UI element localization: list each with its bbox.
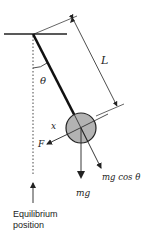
dim-extension-top bbox=[34, 16, 77, 34]
dim-extension-bottom bbox=[96, 104, 124, 116]
equilibrium-label-line2: position bbox=[13, 220, 44, 230]
equilibrium-label-line1: Equilibrium bbox=[13, 209, 58, 219]
length-label: L bbox=[100, 54, 108, 67]
pendulum-diagram: θ L x F mg mg cos θ Equilibrium position bbox=[0, 0, 149, 230]
restoring-force-arrow bbox=[47, 134, 68, 144]
weight-component-label: mg cos θ bbox=[102, 172, 140, 182]
x-label: x bbox=[51, 121, 56, 131]
theta-label: θ bbox=[40, 75, 46, 86]
force-label: F bbox=[37, 139, 45, 149]
weight-label: mg bbox=[76, 188, 91, 198]
angle-arc bbox=[33, 63, 47, 68]
length-dimension-line bbox=[73, 19, 117, 106]
